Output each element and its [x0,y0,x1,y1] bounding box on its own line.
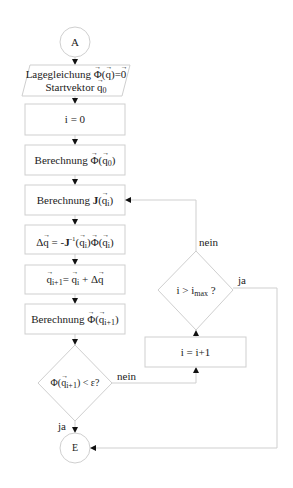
lage-text: Lagegleichung [26,68,91,80]
init-label: i = 0 [25,113,125,125]
input-line2: Startvektor q0 [22,81,130,93]
end-label: E [60,442,90,454]
max-no-label: nein [199,236,218,248]
berechnung-text: Berechnung [35,154,88,166]
input-line1: Lagegleichung Φ(q)=0 [22,68,130,80]
max-iter-label: i > imax ? [158,284,234,296]
berechnung-text: Berechnung [37,194,90,206]
phi0-label: Berechnung Φ(q0) [25,154,125,166]
update-label: qi+1= qi + Δq [25,273,125,285]
jacobian-label: Berechnung J(qi) [25,194,125,206]
increment-label: i = i+1 [145,346,246,358]
converge-yes-label: ja [58,420,66,432]
phi-next-label: Berechnung Φ(qi+1) [25,313,125,325]
berechnung-text: Berechnung [31,313,84,325]
delta-label: Δq = -J-1(qi)Φ(qi) [25,233,125,248]
converge-no-label: nein [117,370,136,382]
max-yes-label: ja [238,274,246,286]
converge-label: Φ(qi+1) < ε? [38,377,112,389]
start-label: A [60,36,90,48]
startvec-text: Startvektor [45,81,94,93]
